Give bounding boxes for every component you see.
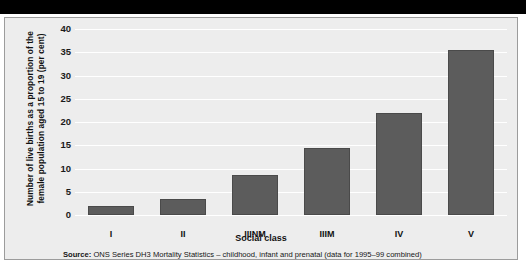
y-axis-tick-labels: 0510152025303540 [7, 29, 71, 215]
y-axis-tick-label: 40 [11, 24, 71, 33]
y-axis-tick-label: 35 [11, 47, 71, 56]
plot-area: IIIIIINMIIIMIVV [75, 29, 507, 215]
bar-iiim [304, 148, 350, 215]
top-black-band [0, 0, 526, 14]
y-axis-tick-label: 30 [11, 71, 71, 80]
bar-i [88, 206, 134, 215]
gridline [75, 145, 507, 146]
bar-iv [376, 113, 422, 215]
y-axis-tick-label: 0 [11, 210, 71, 219]
bar-iiinm [232, 175, 278, 215]
chart-page: Number of live births as a proportion of… [0, 0, 526, 266]
y-axis-tick-label: 10 [11, 164, 71, 173]
gridline [75, 29, 507, 30]
gridline [75, 122, 507, 123]
source-note: Source: ONS Series DH3 Mortality Statist… [63, 250, 511, 259]
source-text: ONS Series DH3 Mortality Statistics – ch… [93, 250, 421, 259]
x-axis-title: Social class [5, 233, 517, 243]
y-axis-tick-label: 5 [11, 187, 71, 196]
axis-baseline [75, 215, 507, 216]
chart-figure: Number of live births as a proportion of… [4, 17, 518, 260]
gridline [75, 76, 507, 77]
source-label: Source: [63, 250, 91, 259]
y-axis-tick-label: 15 [11, 140, 71, 149]
gridline [75, 169, 507, 170]
gridline [75, 99, 507, 100]
y-axis-tick-label: 20 [11, 117, 71, 126]
gridline [75, 192, 507, 193]
bar-ii [160, 199, 206, 215]
y-axis-tick-label: 25 [11, 94, 71, 103]
bar-v [448, 50, 494, 215]
gridline [75, 52, 507, 53]
